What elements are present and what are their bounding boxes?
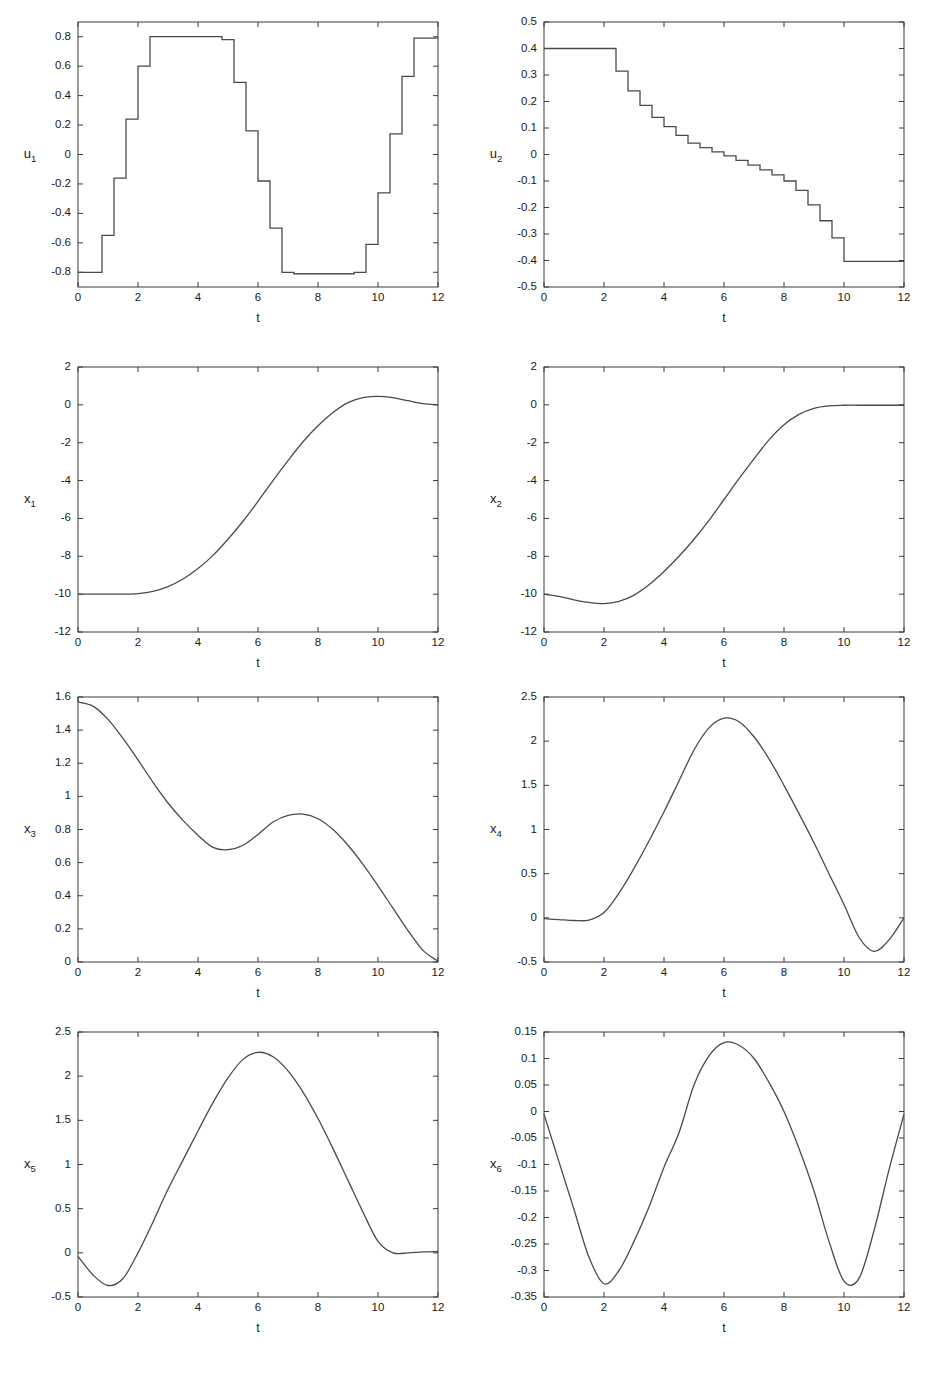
svg-text:u2: u2 — [490, 146, 503, 163]
svg-text:x2: x2 — [490, 491, 502, 508]
y-tick-label: -8 — [61, 549, 71, 561]
y-tick-label: -6 — [61, 511, 71, 523]
svg-text:x4: x4 — [490, 821, 502, 838]
y-tick-label: 0.5 — [521, 867, 537, 879]
subplot-x4: 2.521.510.50-0.5024681012tx4 — [466, 675, 932, 1010]
y-tick-label: -0.5 — [517, 955, 537, 967]
y-tick-label: 2.5 — [55, 1025, 71, 1037]
x-tick-label: 12 — [432, 291, 445, 303]
y-tick-label: 0.5 — [521, 15, 537, 27]
x-tick-label: 0 — [541, 636, 547, 648]
y-tick-label: 0.05 — [515, 1078, 537, 1090]
axes-frame — [544, 1032, 904, 1297]
subplot-x3: 1.61.41.210.80.60.40.20024681012tx3 — [0, 675, 466, 1010]
x-tick-label: 12 — [898, 1301, 911, 1313]
data-series-x3 — [78, 702, 438, 961]
subplot-x5: 2.521.510.50-0.5024681012tx5 — [0, 1010, 466, 1379]
y-tick-label: 2 — [531, 734, 537, 746]
x-axis-label: t — [256, 986, 260, 1000]
y-tick-label: -0.3 — [517, 227, 537, 239]
y-tick-label: 0.4 — [55, 889, 72, 901]
y-tick-label: -0.5 — [51, 1290, 71, 1302]
x-tick-label: 10 — [372, 1301, 385, 1313]
x-tick-label: 4 — [195, 1301, 202, 1313]
data-series-u2 — [544, 49, 904, 262]
y-tick-label: 1 — [531, 823, 537, 835]
x-tick-label: 8 — [315, 291, 321, 303]
y-axis-label: x5 — [24, 1156, 36, 1173]
y-axis-label: u2 — [490, 146, 503, 163]
subplot-x6: 0.150.10.050-0.05-0.1-0.15-0.2-0.25-0.3-… — [466, 1010, 932, 1379]
x-tick-label: 6 — [255, 1301, 261, 1313]
svg-text:u1: u1 — [24, 146, 37, 163]
y-tick-label: -10 — [520, 587, 537, 599]
y-tick-label: -10 — [54, 587, 71, 599]
data-series-x2 — [544, 405, 904, 603]
y-tick-label: 0.8 — [55, 823, 71, 835]
y-tick-label: -0.2 — [517, 201, 537, 213]
svg-text:x6: x6 — [490, 1156, 502, 1173]
x-tick-label: 4 — [661, 966, 668, 978]
y-tick-label: -12 — [520, 625, 537, 637]
y-tick-label: -0.4 — [517, 254, 537, 266]
y-tick-label: -0.1 — [517, 174, 537, 186]
x-tick-label: 12 — [432, 636, 445, 648]
axes-frame — [78, 697, 438, 962]
y-tick-label: -0.2 — [51, 177, 71, 189]
x-tick-label: 10 — [838, 636, 851, 648]
x-tick-label: 2 — [601, 1301, 607, 1313]
x-tick-label: 8 — [315, 1301, 321, 1313]
x-tick-label: 8 — [315, 966, 321, 978]
x-tick-label: 0 — [541, 1301, 547, 1313]
figure-grid: 0.80.60.40.20-0.2-0.4-0.6-0.8024681012tu… — [0, 0, 932, 1379]
y-axis-label: x4 — [490, 821, 502, 838]
y-tick-label: 0 — [531, 148, 537, 160]
y-tick-label: -2 — [61, 436, 71, 448]
data-series-u1 — [78, 37, 438, 274]
y-tick-label: -2 — [527, 436, 537, 448]
x-axis-label: t — [256, 1321, 260, 1335]
y-tick-label: 2.5 — [521, 690, 537, 702]
y-axis-label: x3 — [24, 821, 36, 838]
x-axis-label: t — [722, 1321, 726, 1335]
y-tick-label: 1.5 — [55, 1113, 71, 1125]
x-axis-label: t — [722, 311, 726, 325]
y-tick-label: 1.6 — [55, 690, 71, 702]
y-tick-label: -0.5 — [517, 280, 537, 292]
x-tick-label: 12 — [898, 966, 911, 978]
y-tick-label: -0.15 — [511, 1184, 537, 1196]
x-axis-label: t — [722, 986, 726, 1000]
x-tick-label: 0 — [75, 1301, 81, 1313]
x-tick-label: 6 — [721, 1301, 727, 1313]
x-tick-label: 2 — [601, 291, 607, 303]
x-axis-label: t — [256, 656, 260, 670]
y-tick-label: 0 — [531, 1105, 537, 1117]
y-tick-label: 1.2 — [55, 756, 71, 768]
y-tick-label: 0 — [531, 911, 537, 923]
y-tick-label: -0.4 — [51, 206, 71, 218]
x-tick-label: 2 — [135, 291, 141, 303]
y-tick-label: 0.2 — [521, 95, 537, 107]
y-tick-label: 2 — [65, 360, 71, 372]
subplot-u2: 0.50.40.30.20.10-0.1-0.2-0.3-0.4-0.50246… — [466, 0, 932, 345]
x-tick-label: 8 — [781, 1301, 787, 1313]
y-tick-label: 0 — [65, 148, 71, 160]
y-axis-label: x1 — [24, 491, 36, 508]
x-tick-label: 4 — [661, 1301, 668, 1313]
axes-frame — [544, 697, 904, 962]
x-tick-label: 6 — [721, 291, 727, 303]
y-tick-label: 0.1 — [521, 121, 537, 133]
y-tick-label: 1.4 — [55, 723, 72, 735]
y-tick-label: 0.3 — [521, 68, 537, 80]
x-tick-label: 8 — [781, 291, 787, 303]
y-tick-label: -0.05 — [511, 1131, 537, 1143]
y-tick-label: 0.4 — [55, 89, 72, 101]
y-tick-label: 0.4 — [521, 42, 538, 54]
y-tick-label: -0.8 — [51, 265, 71, 277]
svg-text:x3: x3 — [24, 821, 36, 838]
x-tick-label: 6 — [255, 291, 261, 303]
x-tick-label: 10 — [838, 1301, 851, 1313]
subplot-x2: 20-2-4-6-8-10-12024681012tx2 — [466, 345, 932, 675]
y-tick-label: -4 — [527, 474, 538, 486]
y-tick-label: 0 — [65, 955, 71, 967]
